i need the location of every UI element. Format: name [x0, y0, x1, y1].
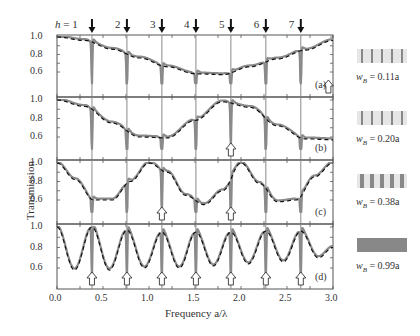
x-axis-label-text: Frequency a/λ	[165, 307, 227, 319]
resonance-order-label: 2	[115, 18, 121, 30]
x-tick-label: 3.0	[325, 292, 338, 303]
width-label: wB = 0.20a	[356, 133, 400, 147]
y-tick-label: 0.8	[30, 175, 43, 186]
grating-bar	[401, 49, 403, 63]
w-value: = 0.11a	[367, 71, 399, 82]
y-tick-label: 1.0	[30, 93, 43, 104]
y-tick-label: 0.8	[30, 112, 43, 123]
grating-structure-icon	[357, 49, 407, 63]
grating-bar	[371, 111, 373, 125]
resonance-order-label: 4	[184, 18, 190, 30]
grating-bar	[400, 174, 404, 188]
grating-bar	[381, 49, 383, 63]
open-arrow-icon	[226, 207, 236, 220]
grating-bar	[361, 111, 363, 125]
grating-bar	[380, 174, 384, 188]
simulated-transmission-curve	[57, 163, 333, 212]
panel-tag: (c)	[315, 206, 326, 217]
open-arrow-icon	[157, 272, 167, 285]
grating-bar	[371, 49, 373, 63]
y-tick-label: 1.0	[30, 30, 43, 41]
y-tick-label: 1.0	[30, 156, 43, 167]
w-symbol: w	[356, 260, 363, 271]
open-arrow-icon	[87, 272, 97, 285]
y-tick-label: 0.8	[30, 48, 43, 59]
w-value: = 0.20a	[367, 133, 400, 144]
width-label: wB = 0.11a	[356, 71, 399, 85]
width-label: wB = 0.99a	[356, 260, 400, 274]
grating-bar	[357, 238, 367, 252]
w-value: = 0.99a	[367, 260, 400, 271]
w-symbol: w	[356, 196, 363, 207]
open-arrow-icon	[296, 272, 306, 285]
grating-bar	[391, 49, 393, 63]
w-value: = 0.38a	[367, 196, 400, 207]
grating-bar	[397, 238, 407, 252]
h-symbol: h	[55, 18, 61, 30]
panel-tag: (b)	[315, 142, 327, 153]
down-arrow-icon	[262, 27, 269, 33]
w-symbol: w	[356, 71, 363, 82]
w-symbol: w	[356, 133, 363, 144]
x-axis-label: Frequency a/λ	[165, 307, 227, 319]
down-arrow-icon	[192, 27, 199, 33]
x-tick-label: 0.5	[95, 292, 108, 303]
panel-frame	[57, 160, 333, 224]
resonance-order-label: 7	[289, 18, 295, 30]
width-label: wB = 0.38a	[356, 196, 400, 210]
x-tick-label: 2.0	[233, 292, 246, 303]
open-arrow-icon	[261, 272, 271, 285]
grating-structure-icon	[357, 238, 407, 252]
grating-structure-icon	[357, 111, 407, 125]
grating-bar	[390, 174, 394, 188]
open-arrow-icon	[226, 272, 236, 285]
grating-bar	[401, 111, 403, 125]
down-arrow-icon	[123, 27, 130, 33]
down-arrow-icon	[158, 27, 165, 33]
y-tick-label: 0.6	[30, 261, 43, 272]
resonance-order-label: h = 1	[55, 18, 78, 30]
down-arrow-icon	[88, 27, 95, 33]
grating-bar	[381, 111, 383, 125]
open-arrow-icon	[122, 272, 132, 285]
grating-bar	[370, 174, 374, 188]
resonance-order-label: 6	[254, 18, 260, 30]
y-tick-label: 1.0	[30, 220, 43, 231]
simulated-transmission-curve	[57, 100, 333, 149]
grating-structure-icon	[357, 174, 407, 188]
grating-bar	[360, 174, 364, 188]
y-tick-label: 0.6	[30, 130, 43, 141]
resonance-order-label: 5	[219, 18, 225, 30]
y-tick-label: 0.8	[30, 241, 43, 252]
open-arrow-icon	[157, 207, 167, 220]
resonance-order-label: 3	[150, 18, 156, 30]
grating-bar	[391, 111, 393, 125]
y-tick-label: 0.6	[30, 193, 43, 204]
x-tick-label: 1.5	[187, 292, 200, 303]
x-tick-label: 1.0	[141, 292, 154, 303]
open-arrow-icon	[226, 143, 236, 156]
simulated-transmission-curve	[57, 37, 333, 83]
grating-bar	[387, 238, 397, 252]
panel-tag: (a)	[315, 79, 326, 90]
x-tick-label: 2.5	[279, 292, 292, 303]
x-tick-label: 0.0	[49, 292, 62, 303]
grating-bar	[361, 49, 363, 63]
y-axis-label: Transmission	[24, 161, 36, 220]
down-arrow-icon	[297, 27, 304, 33]
panel-tag: (d)	[315, 271, 327, 282]
y-tick-label: 0.6	[30, 65, 43, 76]
down-arrow-icon	[227, 27, 234, 33]
open-arrow-icon	[191, 272, 201, 285]
grating-bar	[367, 238, 377, 252]
grating-bar	[377, 238, 387, 252]
